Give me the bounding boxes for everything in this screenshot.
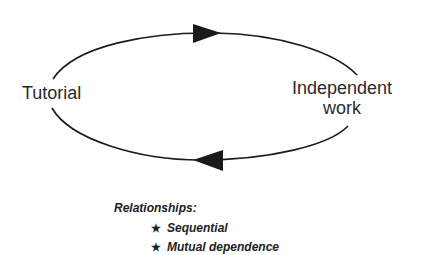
legend-title: Relationships:	[114, 201, 197, 215]
legend-item-mutual-dependence: ★Mutual dependence	[151, 240, 279, 254]
legend-item-sequential: ★Sequential	[151, 221, 228, 235]
node-independent-label-line1: Independent	[292, 78, 392, 98]
arrow-right-icon	[193, 24, 221, 43]
star-icon: ★	[151, 241, 163, 254]
node-independent-label-line2: work	[292, 98, 392, 118]
legend-item-label: Sequential	[167, 221, 228, 235]
star-icon: ★	[151, 222, 163, 235]
node-tutorial: Tutorial	[22, 83, 81, 103]
node-tutorial-label: Tutorial	[22, 83, 81, 103]
edge-tutorial-to-independent	[53, 33, 357, 79]
arrow-left-icon	[193, 150, 223, 171]
cycle-diagram	[0, 0, 435, 255]
legend-item-label: Mutual dependence	[167, 240, 279, 254]
node-independent-work: Independent work	[292, 78, 392, 118]
